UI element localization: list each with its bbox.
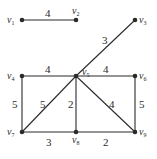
weight-v1-v2: 4 xyxy=(45,7,51,19)
label-v3: v3 xyxy=(139,14,146,26)
label-v9: v9 xyxy=(139,126,146,138)
weight-v5-v8: 2 xyxy=(68,98,74,110)
label-v1: v1 xyxy=(7,14,14,26)
weight-v5-v9: 4 xyxy=(109,98,115,110)
node-v3 xyxy=(133,18,138,23)
edges xyxy=(22,20,135,132)
node-v9 xyxy=(133,130,138,135)
weight-v8-v9: 2 xyxy=(103,136,109,148)
node-v5 xyxy=(74,74,79,79)
label-v6: v6 xyxy=(139,70,146,82)
weight-v5-v6: 4 xyxy=(103,63,109,75)
weight-v7-v8: 3 xyxy=(46,136,52,148)
label-v7: v7 xyxy=(7,126,14,138)
weight-v4-v7: 5 xyxy=(12,98,18,110)
edge-v5-v9 xyxy=(76,76,135,132)
weight-v7-v5: 5 xyxy=(40,98,46,110)
weight-v6-v9: 5 xyxy=(139,98,145,110)
label-v8: v8 xyxy=(72,134,79,146)
label-v2: v2 xyxy=(72,5,79,17)
node-v1 xyxy=(20,18,25,23)
edge-weights: 4 3 4 4 5 5 2 4 5 3 2 xyxy=(12,7,145,148)
weight-v5-v3: 3 xyxy=(102,34,108,46)
node-v4 xyxy=(20,74,25,79)
weighted-graph: 4 3 4 4 5 5 2 4 5 3 2 v1 v2 v3 v4 v5 v6 … xyxy=(0,0,157,159)
node-v7 xyxy=(20,130,25,135)
node-v6 xyxy=(133,74,138,79)
label-v4: v4 xyxy=(7,70,14,82)
label-v5: v5 xyxy=(82,66,89,78)
node-v2 xyxy=(74,18,79,23)
weight-v4-v5: 4 xyxy=(45,63,51,75)
